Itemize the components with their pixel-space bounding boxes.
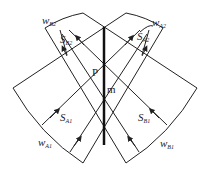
diagram-canvas: wB2 SB2 wA2 SA2 P m SA1 SB1 wA1 wB1 [0,0,209,174]
label-wB2: wB2 [42,14,56,27]
label-P: P [92,66,98,78]
label-m: m [107,83,116,95]
label-SB2: SB2 [60,33,72,46]
fan-sectors-diagram: wB2 SB2 wA2 SA2 P m SA1 SB1 wA1 wB1 [0,0,209,174]
label-wA1: wA1 [38,136,52,149]
label-SB1: SB1 [138,111,150,124]
label-wB1: wB1 [160,137,174,150]
sector-b [45,13,197,163]
label-SA1: SA1 [60,111,72,124]
label-wA2: wA2 [152,16,166,29]
label-SA2: SA2 [137,30,149,43]
